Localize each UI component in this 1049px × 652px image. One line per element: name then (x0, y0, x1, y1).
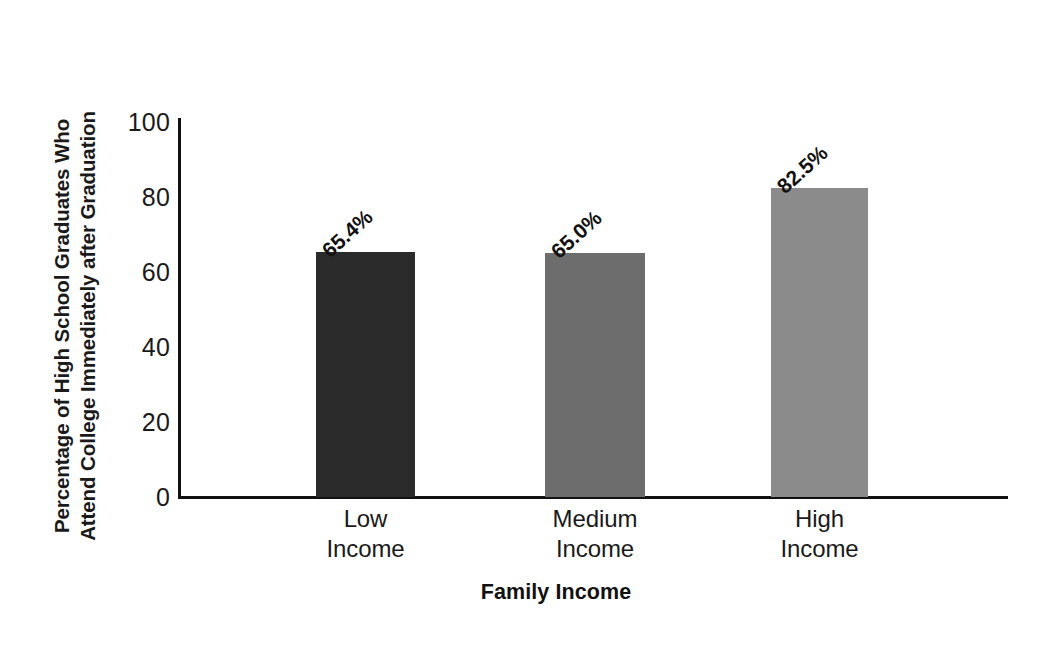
y-axis-title: Percentage of High School Graduates Who … (46, 46, 104, 606)
category-label-high-income-line-2: Income (730, 534, 910, 564)
bar-high-income (771, 188, 868, 497)
category-label-medium-income-line-1: Medium (505, 504, 685, 534)
y-tick-100: 100 (112, 110, 170, 135)
y-axis-title-line-1: Percentage of High School Graduates Who (49, 119, 75, 533)
plot-area: 65.4% 65.0% 82.5% (181, 118, 1008, 497)
y-tick-60: 60 (112, 260, 170, 285)
category-label-medium-income: Medium Income (505, 504, 685, 564)
category-label-low-income: Low Income (276, 504, 456, 564)
bar-low-income (316, 252, 415, 497)
category-label-low-income-line-1: Low (276, 504, 456, 534)
category-label-high-income: High Income (730, 504, 910, 564)
y-tick-80: 80 (112, 185, 170, 210)
y-tick-0: 0 (112, 485, 170, 510)
category-label-high-income-line-1: High (730, 504, 910, 534)
bar-chart: Percentage of High School Graduates Who … (0, 0, 1049, 652)
category-label-low-income-line-2: Income (276, 534, 456, 564)
y-axis-tick-labels: 100 80 60 40 20 0 (112, 0, 170, 652)
y-tick-40: 40 (112, 335, 170, 360)
bar-medium-income (545, 253, 645, 497)
y-axis-title-line-2: Attend College Immediately after Graduat… (75, 111, 101, 541)
x-axis-category-labels: Low Income Medium Income High Income (181, 504, 1008, 574)
category-label-medium-income-line-2: Income (505, 534, 685, 564)
x-axis-title: Family Income (181, 580, 931, 605)
y-tick-20: 20 (112, 410, 170, 435)
